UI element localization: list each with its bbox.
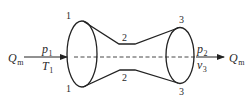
inlet-mass-flow-label: Qm xyxy=(8,52,23,67)
section-1-top-label: 1 xyxy=(66,11,71,21)
section-1-ellipse xyxy=(67,21,97,87)
inlet-pressure-label: p1 xyxy=(42,43,53,58)
section-3-bottom-label: 3 xyxy=(179,87,184,97)
inlet-temperature-label: T1 xyxy=(42,60,53,75)
section-2-bottom-label: 2 xyxy=(122,73,127,83)
nozzle-drawing xyxy=(0,0,249,105)
nozzle-top-wall xyxy=(83,21,178,44)
nozzle-bottom-wall xyxy=(83,70,178,87)
section-2-top-label: 2 xyxy=(122,33,127,43)
outlet-pressure-label: p2 xyxy=(197,43,208,58)
outlet-mass-flow-label: Qm xyxy=(229,52,244,67)
outlet-velocity-label: v3 xyxy=(197,59,207,74)
section-1-bottom-label: 1 xyxy=(66,84,71,94)
section-3-top-label: 3 xyxy=(179,15,184,25)
section-3-ellipse xyxy=(166,28,194,84)
nozzle-diagram: 1 1 2 2 3 3 Qm p1 T1 p2 v3 Qm xyxy=(0,0,249,105)
